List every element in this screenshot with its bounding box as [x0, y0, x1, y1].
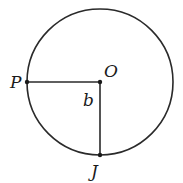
- point-o: [98, 80, 102, 84]
- label-angle-b: b: [83, 90, 94, 110]
- label-j: J: [88, 161, 99, 181]
- point-p: [25, 80, 29, 84]
- label-p: P: [9, 72, 22, 92]
- circle-diagram: O P J b: [0, 0, 183, 183]
- label-o: O: [104, 61, 118, 81]
- point-j: [98, 153, 102, 157]
